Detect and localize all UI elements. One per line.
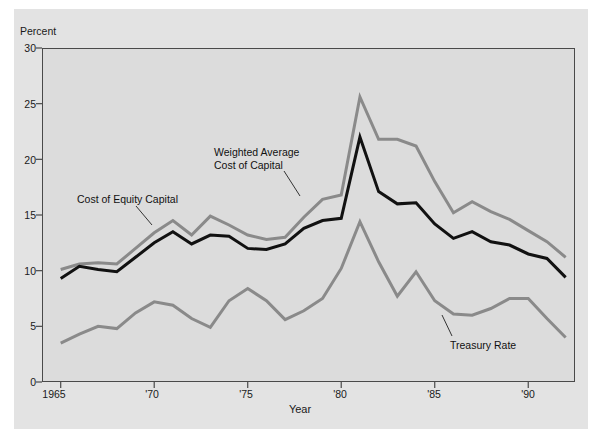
x-tick-label-1980: '80 (320, 388, 360, 400)
plot-area-frame (42, 48, 575, 382)
x-tick-label-1990: '90 (508, 388, 548, 400)
annotation-weighted-average-cost-of-capital: Weighted Average Cost of Capital (214, 146, 299, 171)
x-tick-label-1970: '70 (132, 388, 172, 400)
x-tick-label-1975: '75 (226, 388, 266, 400)
y-axis-title: Percent (20, 25, 56, 37)
y-tick-label-20: 20 (8, 154, 36, 166)
annotation-wacc-line-1: Weighted Average (214, 146, 299, 159)
annotation-wacc-line-2: Cost of Capital (214, 159, 299, 172)
annotation-cost-of-equity-capital: Cost of Equity Capital (77, 193, 178, 206)
annotation-treasury-rate: Treasury Rate (450, 339, 516, 352)
y-tick-label-25: 25 (8, 98, 36, 110)
y-tick-label-0: 0 (8, 376, 36, 388)
y-tick-label-15: 15 (8, 209, 36, 221)
chart-figure: Percent Year 0 5 10 15 20 25 30 1965 '70… (0, 0, 600, 443)
y-tick-label-5: 5 (8, 320, 36, 332)
y-tick-label-10: 10 (8, 265, 36, 277)
x-tick-label-1965: 1965 (30, 388, 78, 400)
y-tick-label-30: 30 (8, 42, 36, 54)
x-tick-label-1985: '85 (414, 388, 454, 400)
x-axis-title: Year (0, 403, 600, 415)
